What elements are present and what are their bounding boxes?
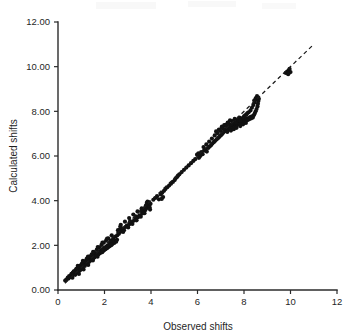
y-tick-label: 6.00	[32, 150, 51, 161]
data-point	[234, 126, 238, 130]
scatter-plot-figure: 0.002.004.006.008.0010.0012.00 024681012…	[0, 0, 357, 336]
data-point	[161, 195, 165, 199]
data-point	[95, 255, 99, 259]
y-tick-label: 12.00	[26, 16, 50, 27]
data-point	[91, 258, 95, 262]
y-tick-label: 8.00	[32, 106, 51, 117]
data-point	[100, 241, 104, 245]
y-tick-label: 4.00	[32, 195, 51, 206]
x-tick-label: 12	[332, 296, 343, 307]
data-point	[91, 250, 95, 254]
data-point	[96, 245, 100, 249]
y-axis-title: Calculated shifts	[8, 119, 19, 192]
data-point	[286, 72, 290, 76]
chart-background	[0, 0, 357, 336]
data-point	[245, 111, 249, 115]
data-point	[148, 208, 152, 212]
data-point	[86, 263, 90, 267]
data-point	[76, 264, 80, 268]
data-point	[77, 272, 81, 276]
data-point	[109, 243, 113, 247]
x-tick-label: 0	[55, 296, 60, 307]
data-point	[81, 267, 85, 271]
data-point	[210, 136, 214, 140]
data-point	[81, 259, 85, 263]
x-tick-label: 2	[102, 296, 107, 307]
data-point	[100, 250, 104, 254]
y-tick-label: 0.00	[32, 284, 51, 295]
data-point	[105, 246, 109, 250]
data-point	[201, 145, 205, 149]
data-point	[121, 230, 125, 234]
x-tick-label: 8	[241, 296, 246, 307]
data-point	[244, 121, 248, 125]
chart-canvas: 0.002.004.006.008.0010.0012.00 024681012…	[0, 0, 357, 336]
x-tick-label: 10	[285, 296, 296, 307]
data-point	[105, 237, 109, 241]
data-point	[225, 130, 229, 134]
x-axis-title: Observed shifts	[163, 321, 232, 332]
data-point	[86, 254, 90, 258]
data-point	[123, 220, 127, 224]
data-point	[205, 149, 209, 153]
x-tick-label: 4	[148, 296, 153, 307]
x-tick-label: 6	[195, 296, 200, 307]
y-tick-label: 2.00	[32, 240, 51, 251]
y-tick-label: 10.00	[26, 61, 50, 72]
